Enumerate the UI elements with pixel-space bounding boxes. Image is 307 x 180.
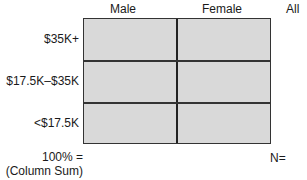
row-label-35k-plus: $35K+: [44, 32, 79, 46]
column-sum-label: 100% = (Column Sum): [0, 150, 83, 178]
cell-male-35k-plus: [84, 19, 176, 61]
column-divider: [176, 19, 178, 143]
cell-female-under-17-5k: [178, 104, 270, 144]
column-sum-label-line2: (Column Sum): [0, 164, 83, 178]
row-divider-2: [84, 102, 270, 104]
column-sum-label-line1: 100% =: [0, 150, 83, 164]
n-label: N=: [270, 151, 286, 165]
cell-female-35k-plus: [178, 19, 270, 61]
crosstab-grid: [83, 18, 271, 144]
cell-female-17-5k-35k: [178, 62, 270, 102]
cell-male-under-17-5k: [84, 104, 176, 144]
column-header-male: Male: [110, 2, 136, 16]
column-header-female: Female: [202, 2, 242, 16]
column-header-all: All: [286, 2, 299, 16]
cell-male-17-5k-35k: [84, 62, 176, 102]
row-label-under-17-5k: <$17.5K: [34, 116, 79, 130]
row-divider-1: [84, 60, 270, 62]
row-label-17-5k-35k: $17.5K–$35K: [6, 74, 79, 88]
